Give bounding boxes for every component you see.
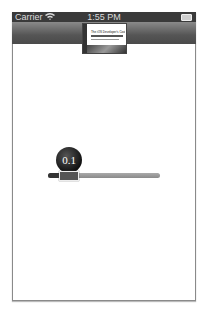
cover-subtitle-bar (91, 39, 119, 40)
slider-value-bubble: 0.1 (56, 147, 82, 173)
slider-thumb[interactable] (59, 171, 79, 181)
cover-title: The iOS Developer's Cookbook (91, 30, 125, 34)
status-bar: Carrier 1:55 PM (12, 12, 196, 22)
book-cover-image: The iOS Developer's Cookbook (82, 23, 127, 54)
clock: 1:55 PM (12, 12, 196, 22)
battery-icon (181, 14, 192, 21)
cover-artwork (87, 45, 126, 53)
phone-screen (12, 12, 196, 301)
cover-title-bar (91, 35, 123, 37)
